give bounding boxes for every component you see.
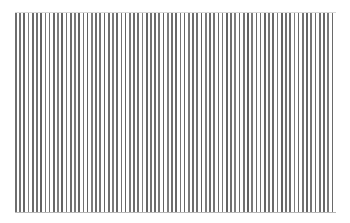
stripe-line	[180, 12, 182, 212]
stripe-line	[61, 12, 63, 212]
stripe-line	[28, 12, 30, 212]
stripe-line	[196, 12, 198, 212]
stripe-line	[226, 12, 228, 212]
stripe-line	[260, 12, 262, 212]
stripe-line	[323, 12, 325, 212]
stripe-line	[142, 12, 144, 212]
stripe-line	[218, 12, 220, 212]
stripe-line	[57, 12, 59, 212]
stripe-line	[74, 12, 76, 212]
stripe-line	[49, 12, 51, 212]
stripe-line	[163, 12, 165, 212]
stripe-line	[319, 12, 321, 212]
stripe-line	[294, 12, 296, 212]
stripe-line	[53, 12, 55, 212]
stripe-line	[175, 12, 177, 212]
stripe-line	[83, 12, 85, 212]
stripe-line	[188, 12, 190, 212]
stripe-line	[45, 12, 47, 212]
stripe-pattern-block	[15, 12, 336, 212]
stripe-line	[87, 12, 89, 212]
stripe-line	[99, 12, 101, 212]
stripe-line	[222, 12, 224, 212]
stripe-line	[15, 12, 17, 212]
pattern-baseline-rule	[15, 212, 336, 213]
stripe-line	[327, 12, 329, 212]
stripe-line	[167, 12, 169, 212]
stripe-line	[289, 12, 291, 212]
stripe-line	[171, 12, 173, 212]
stripe-line	[40, 12, 42, 212]
stripe-line	[23, 12, 25, 212]
stripe-line	[158, 12, 160, 212]
stripe-line	[213, 12, 215, 212]
stripe-line	[104, 12, 106, 212]
stripe-line	[332, 12, 334, 212]
stripe-line	[32, 12, 34, 212]
pattern-top-rule	[15, 12, 336, 13]
stripe-line	[264, 12, 266, 212]
stripe-line	[201, 12, 203, 212]
stripe-line	[239, 12, 241, 212]
stripe-line	[116, 12, 118, 212]
stripe-line	[251, 12, 253, 212]
stripe-line	[184, 12, 186, 212]
stripe-line	[209, 12, 211, 212]
stripe-line	[272, 12, 274, 212]
stripe-line	[302, 12, 304, 212]
stripe-line	[121, 12, 123, 212]
stripe-line	[78, 12, 80, 212]
stripe-line	[234, 12, 236, 212]
stripe-line	[281, 12, 283, 212]
stripe-line	[125, 12, 127, 212]
stripe-line	[306, 12, 308, 212]
stripe-line	[137, 12, 139, 212]
stripe-line	[108, 12, 110, 212]
stripe-line	[19, 12, 21, 212]
stripe-line	[205, 12, 207, 212]
stripe-line	[247, 12, 249, 212]
stripe-line	[192, 12, 194, 212]
stripe-line	[133, 12, 135, 212]
stripe-line	[310, 12, 312, 212]
stripe-line	[256, 12, 258, 212]
stripe-line	[129, 12, 131, 212]
stripe-line	[243, 12, 245, 212]
stripe-line	[150, 12, 152, 212]
stripe-line	[315, 12, 317, 212]
figure-canvas	[0, 0, 350, 223]
stripe-line	[277, 12, 279, 212]
stripe-line	[36, 12, 38, 212]
stripe-line	[112, 12, 114, 212]
stripe-line	[66, 12, 68, 212]
stripe-line	[230, 12, 232, 212]
stripe-line	[146, 12, 148, 212]
stripe-line	[95, 12, 97, 212]
stripe-line	[268, 12, 270, 212]
stripe-line	[154, 12, 156, 212]
stripe-line	[285, 12, 287, 212]
stripe-line	[70, 12, 72, 212]
stripe-line	[298, 12, 300, 212]
stripe-line	[91, 12, 93, 212]
